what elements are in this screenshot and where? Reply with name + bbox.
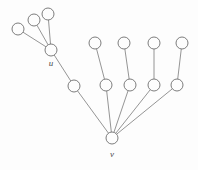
graph-node-mid_4 xyxy=(148,79,160,91)
graph-node-top_1 xyxy=(89,37,101,49)
label-layer: uv xyxy=(49,58,114,159)
graph-edge xyxy=(178,49,182,79)
graph-node-mid_2 xyxy=(100,79,112,91)
graph-edge xyxy=(78,91,109,133)
graph-node-top_4 xyxy=(176,37,188,49)
graph-node-mid_1 xyxy=(68,80,80,92)
graph-edge xyxy=(125,49,129,79)
graph-node-u_leaf_2 xyxy=(28,14,40,26)
edge-layer xyxy=(23,20,181,134)
graph-node-u_leaf_1 xyxy=(12,23,24,35)
node-label-u: u xyxy=(49,58,54,68)
graph-node-u_leaf_3 xyxy=(42,8,54,20)
graph-edge xyxy=(107,91,112,132)
graph-edge xyxy=(49,20,51,44)
graph-edge xyxy=(54,55,71,81)
graph-node-top_3 xyxy=(148,37,160,49)
node-label-v: v xyxy=(110,149,114,159)
graph-edge xyxy=(117,89,173,134)
graph-node-v xyxy=(106,132,118,144)
graph-figure: uv xyxy=(0,0,198,170)
graph-node-mid_3 xyxy=(124,79,136,91)
graph-node-u xyxy=(45,44,57,56)
graph-canvas: uv xyxy=(0,0,198,170)
graph-node-top_2 xyxy=(118,37,130,49)
graph-node-mid_5 xyxy=(171,79,183,91)
graph-edge xyxy=(97,49,105,79)
